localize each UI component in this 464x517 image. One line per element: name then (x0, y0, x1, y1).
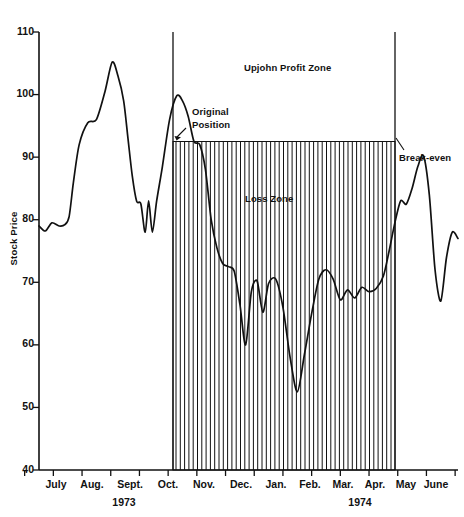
stock-price-chart-figure: Stock Price 110 100 90 80 70 60 50 40 Ju… (0, 0, 464, 517)
original-position-arrowhead (175, 136, 182, 141)
original-position-leader-line (176, 128, 186, 138)
break-even-leader-line (396, 138, 404, 150)
chart-axes (25, 32, 458, 476)
y-axis-ticks (33, 32, 39, 470)
x-axis-ticks (25, 470, 455, 476)
chart-plot-area (0, 0, 464, 517)
